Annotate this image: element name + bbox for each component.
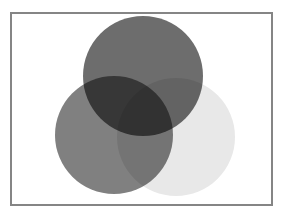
venn-diagram [0,0,283,214]
venn-circle-top [83,16,203,136]
